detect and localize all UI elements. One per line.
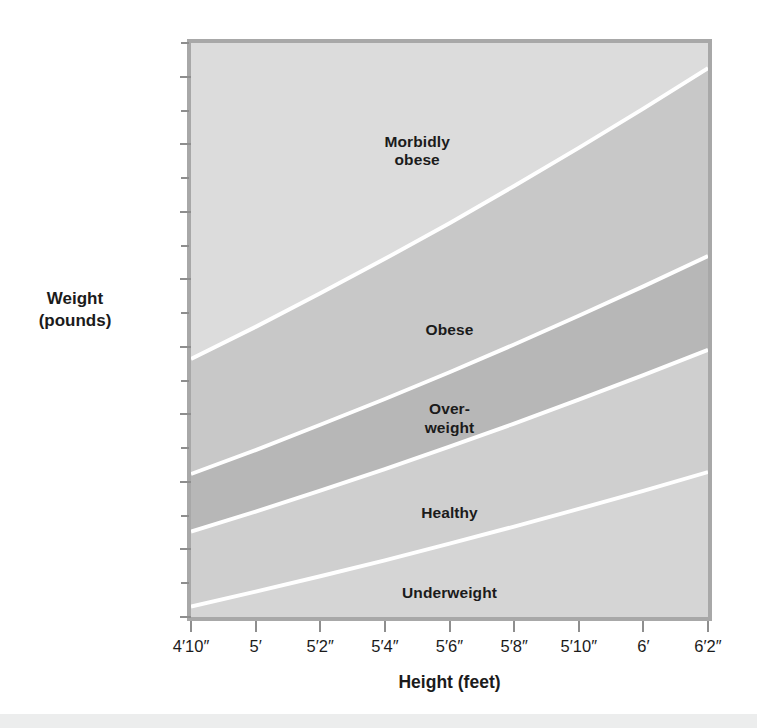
y-tick-minor <box>181 447 189 449</box>
y-tick-major <box>180 211 191 213</box>
y-tick-minor <box>181 312 189 314</box>
x-tick-label: 5′6″ <box>436 638 463 655</box>
x-tick-major <box>642 621 644 632</box>
x-tick-label: 5′4″ <box>371 638 398 655</box>
x-tick-label: 4′10″ <box>173 638 209 655</box>
bmi-chart-figure: Morbidly obese Obese Over- weight Health… <box>0 0 757 728</box>
footer-bar <box>0 714 757 728</box>
y-tick-major <box>180 143 191 145</box>
plot-area: Morbidly obese Obese Over- weight Health… <box>187 39 712 621</box>
x-tick-major <box>319 621 321 632</box>
x-tick-major <box>578 621 580 632</box>
y-tick-minor <box>181 110 189 112</box>
y-tick-minor <box>181 515 189 517</box>
x-tick-label: 5′ <box>249 638 261 655</box>
y-axis-title: Weight (pounds) <box>0 288 150 332</box>
band-regions <box>191 43 708 617</box>
y-tick-major <box>180 548 191 550</box>
y-tick-minor <box>181 42 189 44</box>
y-tick-minor <box>181 582 189 584</box>
y-tick-major <box>180 346 191 348</box>
x-tick-major <box>707 621 709 632</box>
y-tick-major <box>180 481 191 483</box>
x-tick-label: 5′2″ <box>307 638 334 655</box>
x-tick-label: 6′2″ <box>694 638 721 655</box>
x-tick-major <box>190 621 192 632</box>
y-tick-minor <box>181 380 189 382</box>
x-tick-major <box>513 621 515 632</box>
y-tick-major <box>180 76 191 78</box>
x-tick-label: 5′10″ <box>561 638 597 655</box>
y-tick-minor <box>181 177 189 179</box>
y-tick-minor <box>181 245 189 247</box>
x-tick-major <box>384 621 386 632</box>
y-tick-major <box>180 616 191 618</box>
x-tick-label: 5′8″ <box>500 638 527 655</box>
x-tick-major <box>255 621 257 632</box>
x-axis-title: Height (feet) <box>187 672 712 693</box>
x-tick-major <box>449 621 451 632</box>
y-tick-major <box>180 413 191 415</box>
x-tick-label: 6′ <box>637 638 649 655</box>
y-tick-major <box>180 278 191 280</box>
